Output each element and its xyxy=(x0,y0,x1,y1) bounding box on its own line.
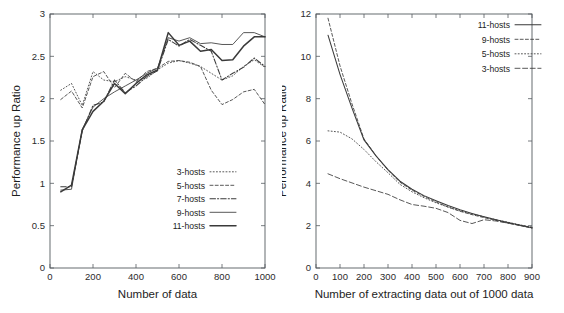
x-tick-label: 100 xyxy=(332,271,348,282)
legend-label-11-hosts: 11-hosts xyxy=(478,20,510,30)
chart-right-svg: 0100200300400500600700800900024681012Num… xyxy=(282,0,564,313)
y-tick-label: 1 xyxy=(40,178,45,189)
x-tick-label: 600 xyxy=(452,271,468,282)
series-line-11-hosts xyxy=(61,33,265,192)
legend-label-5-hosts: 5-hosts xyxy=(482,49,510,59)
x-tick-label: 400 xyxy=(404,271,420,282)
y-axis-title: Performance up Ratio xyxy=(10,85,22,197)
x-tick-label: 700 xyxy=(476,271,492,282)
legend-label-11-hosts: 11-hosts xyxy=(173,221,205,231)
y-tick-label: 2 xyxy=(40,93,45,104)
series-line-5-hosts xyxy=(328,131,532,228)
x-axis-title: Number of data xyxy=(118,288,198,300)
legend-label-5-hosts: 5-hosts xyxy=(177,181,205,191)
x-tick-label: 800 xyxy=(214,271,230,282)
x-tick-label: 500 xyxy=(428,271,444,282)
x-tick-label: 200 xyxy=(356,271,372,282)
y-tick-label: 4 xyxy=(306,178,311,189)
y-tick-label: 6 xyxy=(306,135,311,146)
plot-frame xyxy=(50,14,265,268)
x-tick-label: 0 xyxy=(47,271,52,282)
chart-panel-left: 0200400600800100000.511.522.53Number of … xyxy=(0,0,282,313)
x-tick-label: 1000 xyxy=(254,271,275,282)
legend-label-9-hosts: 9-hosts xyxy=(482,35,510,45)
chart-left-svg: 0200400600800100000.511.522.53Number of … xyxy=(0,0,282,313)
y-tick-label: 10 xyxy=(300,51,311,62)
x-tick-label: 900 xyxy=(524,271,540,282)
x-tick-label: 600 xyxy=(171,271,187,282)
series-line-3-hosts xyxy=(61,60,265,106)
figure-container: 0200400600800100000.511.522.53Number of … xyxy=(0,0,564,313)
y-tick-label: 2.5 xyxy=(32,51,45,62)
y-tick-label: 8 xyxy=(306,93,311,104)
y-axis-title: Performance up Ratio xyxy=(282,85,288,197)
chart-panel-right: 0100200300400500600700800900024681012Num… xyxy=(282,0,564,313)
y-tick-label: 1.5 xyxy=(32,135,45,146)
legend-label-3-hosts: 3-hosts xyxy=(482,64,510,74)
legend-label-3-hosts: 3-hosts xyxy=(177,167,205,177)
y-tick-label: 0 xyxy=(306,262,311,273)
x-tick-label: 0 xyxy=(313,271,318,282)
y-tick-label: 2 xyxy=(306,220,311,231)
x-tick-label: 200 xyxy=(85,271,101,282)
series-line-5-hosts xyxy=(61,61,265,108)
x-tick-label: 300 xyxy=(380,271,396,282)
legend-label-7-hosts: 7-hosts xyxy=(177,194,205,204)
x-tick-label: 800 xyxy=(500,271,516,282)
x-tick-label: 400 xyxy=(128,271,144,282)
series-line-3-hosts xyxy=(328,174,532,228)
series-line-9-hosts xyxy=(61,33,265,190)
y-tick-label: 3 xyxy=(40,8,45,19)
y-tick-label: 12 xyxy=(300,8,311,19)
y-tick-label: 0 xyxy=(40,262,45,273)
legend-label-9-hosts: 9-hosts xyxy=(177,208,205,218)
x-axis-title: Number of extracting data out of 1000 da… xyxy=(315,288,534,300)
y-tick-label: 0.5 xyxy=(32,220,45,231)
